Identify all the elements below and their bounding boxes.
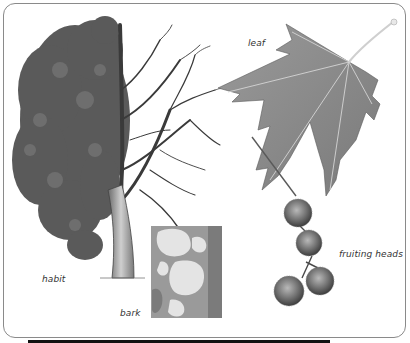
bark-swatch-drawing bbox=[151, 226, 222, 318]
leaf-drawing bbox=[218, 19, 397, 196]
label-bark: bark bbox=[120, 308, 141, 318]
label-fruiting-heads: fruiting heads bbox=[339, 249, 403, 259]
label-leaf: leaf bbox=[248, 38, 265, 48]
label-habit: habit bbox=[42, 274, 65, 284]
botanical-illustration bbox=[0, 0, 410, 343]
